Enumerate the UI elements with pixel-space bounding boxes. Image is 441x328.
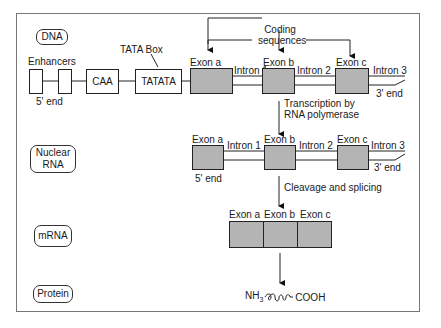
rna-exon-b bbox=[264, 145, 296, 170]
transcription-line-2: RNA polymerase bbox=[284, 109, 359, 120]
stage-dna-label: DNA bbox=[41, 31, 62, 43]
tata-box-label: TATA Box bbox=[120, 44, 163, 55]
caa-label: CAA bbox=[92, 76, 113, 87]
dna-exon-b-label: Exon b bbox=[263, 57, 294, 68]
protein-n-terminus: NH3 bbox=[245, 290, 263, 305]
dna-exon-c bbox=[335, 68, 369, 94]
rna-three-prime-label: 3' end bbox=[374, 162, 401, 173]
transcription-label: Transcription by RNA polymerase bbox=[284, 98, 359, 120]
rna-exon-c-label: Exon c bbox=[337, 134, 368, 145]
tatata-box: TATATA bbox=[135, 69, 182, 94]
mrna-exon-b bbox=[263, 221, 298, 248]
rna-exon-b-label: Exon b bbox=[264, 134, 295, 145]
dna-exon-c-label: Exon c bbox=[336, 57, 367, 68]
dna-exon-b bbox=[262, 68, 295, 94]
dna-exon-a bbox=[190, 68, 233, 94]
rna-exon-a-label: Exon a bbox=[192, 134, 223, 145]
rna-exon-c bbox=[337, 145, 369, 170]
protein-nh-subscript: 3 bbox=[259, 296, 263, 303]
coding-line-1: Coding bbox=[258, 24, 302, 35]
rna-intron-2-label: Intron 2 bbox=[299, 140, 333, 151]
stage-dna: DNA bbox=[36, 29, 68, 45]
coding-line-2: sequences bbox=[258, 35, 302, 46]
protein-nh: NH bbox=[245, 290, 259, 301]
mrna-exon-b-label: Exon b bbox=[264, 209, 295, 220]
protein-chain: NH3 COOH bbox=[245, 290, 325, 305]
cleavage-label: Cleavage and splicing bbox=[284, 182, 382, 193]
dna-exon-a-label: Exon a bbox=[190, 57, 221, 68]
enhancer-box-2 bbox=[58, 69, 72, 94]
rna-exon-a bbox=[192, 145, 224, 170]
mrna-exon-a bbox=[229, 221, 264, 248]
stage-nuclear-rna: Nuclear RNA bbox=[30, 145, 76, 173]
mrna-exon-c bbox=[297, 221, 332, 248]
stage-nuclear-label-2: RNA bbox=[42, 159, 63, 171]
stage-mrna: mRNA bbox=[34, 225, 72, 247]
mrna-exon-a-label: Exon a bbox=[229, 209, 260, 220]
enhancer-box-1 bbox=[29, 69, 43, 94]
protein-c-terminus: COOH bbox=[295, 292, 325, 303]
transcription-line-1: Transcription by bbox=[284, 98, 359, 109]
dna-intron-3-label: Intron 3 bbox=[373, 65, 407, 76]
rna-five-prime-label: 5' end bbox=[195, 173, 222, 184]
mrna-exon-c-label: Exon c bbox=[300, 209, 331, 220]
coding-sequences-label: Coding sequences bbox=[258, 24, 302, 46]
tatata-label: TATATA bbox=[141, 76, 176, 87]
enhancers-label: Enhancers bbox=[28, 56, 76, 67]
caa-box: CAA bbox=[86, 69, 119, 94]
stage-nuclear-label-1: Nuclear bbox=[36, 147, 70, 159]
stage-protein-label: Protein bbox=[37, 288, 69, 300]
rna-intron-1-label: Intron 1 bbox=[227, 140, 261, 151]
polypeptide-squiggle-icon bbox=[264, 292, 294, 304]
dna-five-prime-label: 5' end bbox=[36, 96, 63, 107]
dna-three-prime-label: 3' end bbox=[376, 88, 403, 99]
stage-protein: Protein bbox=[33, 285, 73, 303]
rna-intron-3-label: Intron 3 bbox=[371, 140, 405, 151]
dna-intron-2-label: Intron 2 bbox=[297, 65, 331, 76]
stage-mrna-label: mRNA bbox=[38, 230, 67, 242]
